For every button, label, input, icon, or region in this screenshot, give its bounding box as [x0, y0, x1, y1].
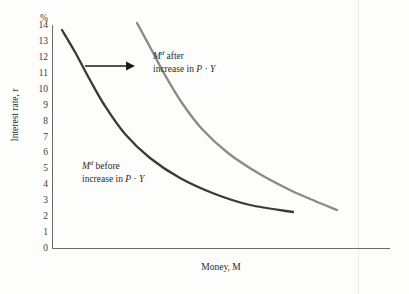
- annotation-before-dot: ·: [131, 174, 139, 184]
- annotation-before-line2-prefix: increase in: [82, 174, 125, 184]
- annotation-after-line2-prefix: increase in: [153, 64, 196, 74]
- arrow-head: [126, 62, 135, 71]
- annotation-after-y: Y: [210, 64, 215, 74]
- annotation-before-y: Y: [139, 174, 144, 184]
- annotation-before-line1-suffix: before: [93, 161, 120, 171]
- annotation-before-line1: Md before: [82, 160, 144, 173]
- money-demand-chart: %14131211109876543210 Interest rate, r M…: [0, 0, 409, 294]
- annotation-md-after: Md after increase in P · Y: [153, 50, 215, 75]
- annotation-md-before: Md before increase in P · Y: [82, 160, 144, 185]
- annotation-after-dot: ·: [202, 64, 210, 74]
- annotation-after-line2: increase in P · Y: [153, 63, 215, 76]
- annotation-after-line1: Md after: [153, 50, 215, 63]
- annotation-before-line2: increase in P · Y: [82, 173, 144, 186]
- plot-area: [0, 0, 409, 294]
- annotation-after-line1-suffix: after: [164, 51, 184, 61]
- rightward-shift-arrow: [85, 62, 135, 71]
